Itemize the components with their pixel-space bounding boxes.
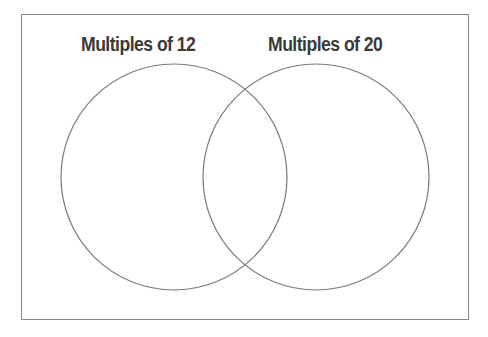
set-label-left: Multiples of 12 <box>81 33 195 56</box>
set-label-right: Multiples of 20 <box>268 33 382 56</box>
circle-multiples-of-20 <box>203 64 429 290</box>
venn-diagram <box>0 0 488 337</box>
circle-multiples-of-12 <box>61 64 287 290</box>
